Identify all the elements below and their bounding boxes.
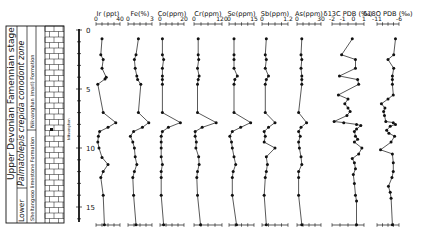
data-point-icon <box>160 135 163 138</box>
data-point-icon <box>161 130 164 133</box>
data-point-icon <box>390 141 393 144</box>
data-point-icon <box>387 58 390 61</box>
data-point-icon <box>383 114 386 117</box>
data-point-icon <box>392 67 395 70</box>
data-point-icon <box>135 223 138 226</box>
data-point-icon <box>392 53 395 56</box>
data-point-icon <box>231 147 234 150</box>
data-point-icon <box>141 126 144 129</box>
data-point-icon <box>137 111 140 114</box>
data-point-icon <box>390 197 393 200</box>
data-point-icon <box>195 141 198 144</box>
data-point-icon <box>160 176 163 179</box>
data-point-icon <box>231 176 234 179</box>
data-point-icon <box>160 147 163 150</box>
data-point-icon <box>234 163 237 166</box>
tick-label: 0 <box>227 15 231 22</box>
data-point-icon <box>131 141 134 144</box>
data-point-icon <box>300 126 303 129</box>
profile-line <box>381 39 396 225</box>
data-point-icon <box>233 111 236 114</box>
data-point-icon <box>265 37 268 40</box>
data-point-icon <box>233 78 236 81</box>
data-point-icon <box>337 93 340 96</box>
data-point-icon <box>297 170 300 173</box>
data-point-icon <box>391 152 394 155</box>
data-point-icon <box>263 130 266 133</box>
data-point-icon <box>392 93 395 96</box>
data-point-icon <box>351 37 354 40</box>
data-point-icon <box>299 135 302 138</box>
data-point-icon <box>359 124 362 127</box>
svg-text:10: 10 <box>86 145 95 153</box>
data-point-icon <box>347 98 350 101</box>
data-point-icon <box>132 130 135 133</box>
data-point-icon <box>265 155 268 158</box>
data-point-icon <box>265 170 268 173</box>
data-point-icon <box>196 67 199 70</box>
profile-line <box>195 39 216 225</box>
data-point-icon <box>197 58 200 61</box>
data-point-icon <box>345 114 348 117</box>
data-point-icon <box>392 170 395 173</box>
data-point-icon <box>265 58 268 61</box>
data-point-icon <box>300 223 303 226</box>
stage-label: Upper Devonian Famennian stage <box>6 27 16 180</box>
data-point-icon <box>353 130 356 133</box>
data-point-icon <box>338 75 341 78</box>
data-point-icon <box>102 170 105 173</box>
data-point-icon <box>355 128 358 131</box>
data-point-icon <box>99 53 102 56</box>
data-point-icon <box>263 141 266 144</box>
data-point-icon <box>197 78 200 81</box>
data-point-icon <box>160 141 163 144</box>
data-point-icon <box>228 135 231 138</box>
data-point-icon <box>132 194 135 197</box>
tick-label: -6 <box>396 15 402 22</box>
data-point-icon <box>391 78 394 81</box>
data-point-icon <box>98 130 101 133</box>
data-point-icon <box>300 163 303 166</box>
data-point-icon <box>139 83 142 86</box>
data-point-icon <box>355 123 358 126</box>
data-point-icon <box>390 176 393 179</box>
data-point-icon <box>297 141 300 144</box>
tick-label: -11 <box>372 15 382 22</box>
tick-label: 0 <box>126 15 130 22</box>
svg-text:0: 0 <box>86 27 90 35</box>
data-point-icon <box>196 83 199 86</box>
data-point-icon <box>300 37 303 40</box>
data-point-icon <box>133 170 136 173</box>
data-point-icon <box>161 163 164 166</box>
depth-axis: 0 5 10 15 <box>76 27 95 222</box>
data-point-icon <box>103 223 106 226</box>
stratigraphic-column: Upper Devonian Famennian stage Lower Pal… <box>6 26 71 223</box>
data-point-icon <box>264 83 267 86</box>
data-point-icon <box>135 75 138 78</box>
data-point-icon <box>161 67 164 70</box>
data-point-icon <box>347 106 350 109</box>
data-point-icon <box>161 37 164 40</box>
data-point-icon <box>114 121 117 124</box>
data-point-icon <box>194 147 197 150</box>
data-point-icon <box>162 58 165 61</box>
data-point-icon <box>133 147 136 150</box>
data-point-icon <box>274 121 277 124</box>
data-point-icon <box>333 120 336 123</box>
tick-label: -2 <box>329 15 335 22</box>
data-point-icon <box>393 135 396 138</box>
data-point-icon <box>162 223 165 226</box>
data-point-icon <box>233 53 236 56</box>
data-point-icon <box>161 83 164 86</box>
data-point-icon <box>389 191 392 194</box>
panel-title: Fe(%) <box>131 10 150 18</box>
data-point-icon <box>101 37 104 40</box>
data-point-icon <box>161 78 164 81</box>
conodont-zone-label: Palmatolepis crepida conodont zone <box>17 41 26 186</box>
data-point-icon <box>300 78 303 81</box>
panel-co-ppm-: Co(ppm)020 <box>158 10 188 227</box>
data-point-icon <box>102 58 105 61</box>
data-point-icon <box>391 83 394 86</box>
data-point-icon <box>264 111 267 114</box>
data-point-icon <box>134 67 137 70</box>
